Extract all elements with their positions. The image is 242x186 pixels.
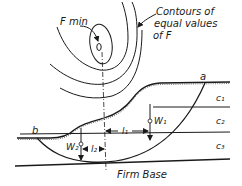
label-contours-2: equal values (154, 18, 217, 29)
label-point-b: b (32, 125, 38, 136)
label-w2: W₂ (66, 142, 79, 152)
f-min-leader (80, 26, 98, 41)
label-layer-c3: c₃ (216, 141, 225, 151)
label-firm-base: Firm Base (117, 169, 167, 180)
label-contours-1: Contours of (156, 6, 215, 17)
label-w1: W₁ (154, 116, 167, 126)
label-l2: l₂ (91, 144, 98, 154)
contour-3 (50, 2, 137, 84)
label-f-min: F min (60, 16, 88, 27)
w1-point (148, 119, 152, 123)
slope-stability-diagram: F min Contours of equal values of F a b … (0, 0, 242, 186)
label-contours-3: of F (153, 30, 172, 41)
label-layer-c2: c₂ (216, 116, 225, 126)
label-point-a: a (200, 71, 206, 82)
label-layer-c1: c₁ (216, 93, 225, 103)
contour-2 (57, 2, 128, 70)
f-min-point (97, 44, 101, 51)
label-l1: l₁ (122, 126, 129, 136)
slip-circle (37, 83, 205, 162)
w2-point (79, 142, 83, 146)
